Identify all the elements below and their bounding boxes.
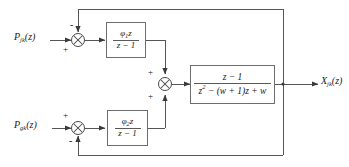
transfer-function-block-plant: z − 1 z2 − (w + 1)z + w: [190, 65, 275, 104]
block-diagram: Pjk(z) Pgk(z) Xjk(z) + - + + + - φ1z z −…: [0, 0, 349, 167]
controller-1-denominator: z − 1: [114, 41, 139, 50]
plant-fraction: z − 1 z2 − (w + 1)z + w: [191, 73, 274, 97]
summer-top-sign-left: +: [63, 45, 68, 54]
summing-junction-top: [71, 33, 85, 47]
wiring-lines: [0, 0, 349, 167]
controller-1-z: z: [128, 28, 132, 38]
input-top-arg: (z): [25, 31, 36, 42]
summing-junction-center: [158, 77, 172, 91]
output-arg: (z): [332, 75, 343, 86]
controller-2-denominator: z − 1: [115, 129, 140, 138]
controller-2-z: z: [130, 116, 134, 126]
summer-center-sign-top: +: [148, 68, 153, 77]
plant-denominator: z2 − (w + 1)z + w: [196, 84, 270, 97]
controller-1-fraction: φ1z z − 1: [113, 29, 139, 50]
summing-junction-bottom: [71, 121, 85, 135]
input-label-bottom: Pgk(z): [14, 120, 37, 132]
transfer-function-block-controller-1: φ1z z − 1: [106, 22, 146, 58]
input-bottom-arg: (z): [26, 119, 37, 130]
plant-den-tail: − (w + 1)z + w: [206, 86, 267, 96]
controller-2-numerator: φ2z: [119, 117, 137, 128]
output-label-x: Xjk(z): [321, 76, 342, 88]
plant-numerator: z − 1: [220, 73, 246, 83]
input-label-top: Pjk(z): [14, 32, 35, 44]
summer-top-sign-top: -: [70, 20, 73, 30]
signal-takeoff-node: [281, 82, 284, 85]
controller-1-numerator: φ1z: [117, 29, 135, 40]
summer-bottom-sign-left: +: [63, 111, 68, 120]
summer-center-sign-bottom: +: [148, 92, 153, 101]
summer-bottom-sign-bottom: -: [69, 136, 72, 146]
transfer-function-block-controller-2: φ2z z − 1: [107, 110, 148, 146]
controller-2-fraction: φ2z z − 1: [115, 117, 141, 138]
